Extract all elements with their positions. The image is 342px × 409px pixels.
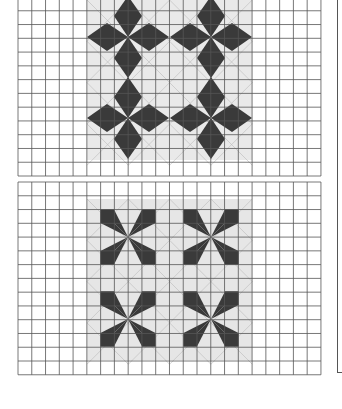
quilt-diagram-top xyxy=(0,0,342,409)
figure-top xyxy=(18,0,321,176)
page-border-corner xyxy=(337,372,342,373)
grid-lines xyxy=(18,0,321,176)
figure-bottom xyxy=(18,182,321,375)
footer-text xyxy=(10,390,330,402)
page-border-line xyxy=(337,0,338,373)
grid-lines xyxy=(18,182,321,375)
document-page xyxy=(0,0,342,409)
